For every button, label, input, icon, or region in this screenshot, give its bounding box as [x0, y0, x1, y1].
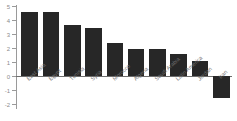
bar-chart: 543210-1-2 East AsiaEgyptTunisiaSyriaMor…: [0, 0, 237, 121]
chart-root: 543210-1-2 East AsiaEgyptTunisiaSyriaMor…: [0, 0, 237, 121]
